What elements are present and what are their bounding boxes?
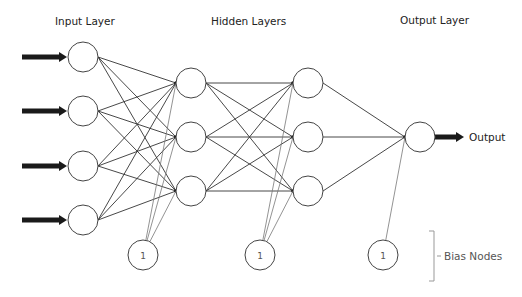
input-node <box>68 96 98 126</box>
hidden-node <box>293 68 323 98</box>
output-node <box>405 122 435 152</box>
input-arrow-head <box>59 106 67 116</box>
input-arrow-head <box>59 161 67 171</box>
bias-node-value: 1 <box>140 251 146 261</box>
connections <box>98 57 407 242</box>
input-layer-label: Input Layer <box>55 15 115 27</box>
hidden-node <box>293 176 323 206</box>
input-arrow-head <box>59 52 67 62</box>
connection-edge <box>98 57 176 83</box>
bias-edge <box>263 83 293 240</box>
connection-edge <box>98 191 176 220</box>
input-arrow-head <box>59 215 67 225</box>
output-arrow-shaft <box>435 135 457 140</box>
output-label: Output <box>469 131 505 143</box>
nodes: 111 <box>68 42 435 270</box>
connection-edge <box>323 137 405 191</box>
bias-bracket <box>429 231 434 281</box>
output-layer-label: Output Layer <box>400 14 470 26</box>
hidden-node <box>293 122 323 152</box>
bias-node-value: 1 <box>257 251 263 261</box>
hidden-layers-label: Hidden Layers <box>211 15 286 27</box>
input-arrows <box>22 52 464 225</box>
bias-nodes-label: Bias Nodes <box>444 250 502 262</box>
hidden-node <box>176 122 206 152</box>
output-arrow-head <box>456 132 464 142</box>
input-node <box>68 205 98 235</box>
connection-edge <box>323 83 405 137</box>
input-arrow-shaft <box>22 218 60 223</box>
input-node <box>68 151 98 181</box>
input-arrow-shaft <box>22 164 60 169</box>
bias-edge <box>146 83 176 240</box>
input-node <box>68 42 98 72</box>
hidden-node <box>176 68 206 98</box>
connection-edge <box>98 83 176 220</box>
hidden-node <box>176 176 206 206</box>
connection-edge <box>98 83 176 111</box>
bias-edge <box>386 137 405 240</box>
neural-network-diagram: 111 Input Layer Hidden Layers Output Lay… <box>0 0 522 297</box>
input-arrow-shaft <box>22 55 60 60</box>
bias-node-value: 1 <box>380 251 386 261</box>
input-arrow-shaft <box>22 109 60 114</box>
